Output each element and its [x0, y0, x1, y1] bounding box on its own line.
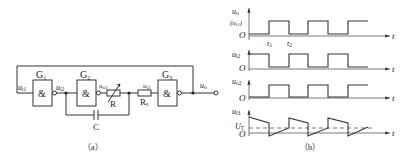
label-ui2: ui2 [56, 83, 65, 92]
diagram-canvas: G1 G2 G3 & & & ui1 ui2 uo2 ui3 uo R Rs C… [0, 0, 402, 160]
ylabel-ui2: ui2 [232, 50, 241, 59]
label-t2: t2 [287, 39, 292, 48]
waveform-uo [249, 21, 368, 34]
label-uo: uo [200, 81, 207, 90]
t-axis-label-2: t [392, 64, 395, 74]
t-axis-label-4: t [392, 128, 395, 138]
label-t1: t1 [267, 39, 272, 48]
origin-label-1: O [239, 30, 246, 40]
origin-label-2: O [239, 63, 246, 73]
t-axis-label-1: t [392, 31, 395, 41]
g3-symbol: & [163, 88, 171, 99]
g1-symbol: & [38, 88, 46, 99]
t-axis-label-3: t [392, 93, 395, 103]
waveform-panel [249, 8, 390, 136]
g2-symbol: & [82, 88, 90, 99]
resistor-rs [138, 90, 151, 96]
label-c: C [93, 122, 99, 132]
label-g2: G2 [80, 69, 90, 81]
ylabel-ui1: (ui1) [230, 19, 243, 27]
label-ui1: ui1 [18, 83, 27, 92]
label-r: R [110, 99, 116, 109]
caption-b: （b） [300, 143, 320, 152]
origin-label-3: O [239, 93, 246, 103]
label-ui3: ui3 [143, 82, 151, 90]
waveform-labels: uo (ui1) O t1 t2 t ui2 O t uo2 O t ui3 U… [230, 7, 395, 152]
ylabel-uo: uo [232, 7, 239, 16]
output-terminal [214, 91, 218, 95]
label-uo2: uo2 [99, 82, 108, 90]
label-g1: G1 [36, 69, 46, 81]
caption-a: （a） [83, 143, 103, 152]
ylabel-ui3: ui3 [232, 107, 241, 116]
label-rs: Rs [140, 97, 148, 107]
circuit-labels: G1 G2 G3 & & & ui1 ui2 uo2 ui3 uo R Rs C… [18, 69, 207, 152]
waveform-uo2 [249, 85, 368, 97]
label-g3: G3 [162, 69, 172, 81]
ylabel-uo2: uo2 [232, 77, 242, 86]
origin-label-4: O [239, 129, 246, 139]
waveform-ui2 [249, 54, 368, 67]
circuit-diagram [17, 66, 218, 120]
